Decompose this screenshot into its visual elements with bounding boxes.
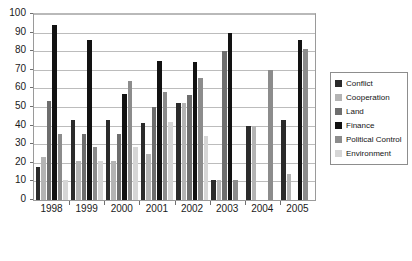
bar [128, 81, 133, 200]
bars-layer [34, 14, 315, 200]
bar [228, 33, 233, 200]
chart-legend: ConflictCooperationLandFinancePolitical … [330, 72, 408, 165]
bar [71, 120, 76, 200]
x-axis-tick-label: 2002 [181, 203, 203, 214]
bar [211, 180, 216, 200]
bar [176, 103, 181, 200]
legend-swatch-icon [335, 136, 342, 143]
y-axis-tick-mark [30, 50, 33, 51]
bar [98, 161, 103, 200]
x-axis-tick-mark [139, 201, 140, 205]
y-axis-tick-mark [30, 199, 33, 200]
bar [87, 40, 92, 200]
x-axis-tick-label: 2000 [111, 203, 133, 214]
legend-item-label: Cooperation [346, 94, 390, 102]
bar [281, 120, 286, 200]
bar [106, 120, 111, 200]
y-axis-tick-label: 90 [15, 27, 26, 37]
bar-group [139, 14, 174, 200]
bar [287, 174, 292, 200]
y-axis-tick-mark [30, 87, 33, 88]
x-axis-tick-label: 2001 [146, 203, 168, 214]
x-axis-tick-label: 1998 [40, 203, 62, 214]
bar [193, 62, 198, 200]
bar [187, 95, 192, 200]
legend-swatch-icon [335, 150, 342, 157]
bar-group [104, 14, 139, 200]
y-axis-tick-mark [30, 69, 33, 70]
bar [36, 167, 41, 200]
y-axis-tick-label: 70 [15, 64, 26, 74]
legend-item: Political Control [335, 133, 404, 146]
legend-item: Conflict [335, 77, 404, 90]
x-axis-tick-mark [280, 201, 281, 205]
bar-group [210, 14, 245, 200]
bar [117, 134, 122, 200]
bar [198, 78, 203, 200]
bar [182, 103, 187, 200]
bar [157, 61, 162, 201]
bar [52, 25, 57, 200]
x-axis: 19981999200020012002200320042005 [34, 203, 315, 219]
bar [246, 126, 251, 200]
y-axis-tick-label: 50 [15, 101, 26, 111]
legend-swatch-icon [335, 122, 342, 129]
bar [163, 92, 168, 200]
bar [252, 126, 257, 200]
y-axis-tick-mark [30, 180, 33, 181]
bar [204, 136, 209, 200]
x-axis-tick-label: 2005 [286, 203, 308, 214]
legend-item: Finance [335, 119, 404, 132]
legend-item: Land [335, 105, 404, 118]
bar-group [245, 14, 280, 200]
bar [298, 40, 303, 200]
bar-group [34, 14, 69, 200]
y-axis-tick-label: 30 [15, 138, 26, 148]
x-axis-tick-mark [245, 201, 246, 205]
y-axis-tick-mark [30, 106, 33, 107]
legend-item-label: Conflict [346, 80, 373, 88]
y-axis-tick-label: 80 [15, 45, 26, 55]
y-axis-tick-mark [30, 143, 33, 144]
bar [133, 147, 138, 200]
bar [152, 107, 157, 200]
x-axis-tick-label: 1999 [76, 203, 98, 214]
bar [233, 180, 238, 200]
bar [111, 161, 116, 200]
bar-group [175, 14, 210, 200]
y-axis-tick-label: 100 [9, 8, 26, 18]
y-axis-tick-label: 60 [15, 82, 26, 92]
x-axis-tick-mark [210, 201, 211, 205]
bar [141, 123, 146, 200]
bar [268, 70, 273, 200]
legend-item: Cooperation [335, 91, 404, 104]
x-axis-tick-mark [175, 201, 176, 205]
bar [168, 122, 173, 200]
bar-group [280, 14, 315, 200]
y-axis-tick-mark [30, 32, 33, 33]
legend-swatch-icon [335, 108, 342, 115]
x-axis-tick-label: 2003 [216, 203, 238, 214]
bar [93, 147, 98, 200]
legend-swatch-icon [335, 94, 342, 101]
bar [303, 49, 308, 200]
y-axis-tick-mark [30, 162, 33, 163]
bar [222, 51, 227, 200]
y-axis-tick-mark [30, 125, 33, 126]
bar [47, 101, 52, 200]
y-axis-tick-label: 40 [15, 120, 26, 130]
legend-item: Environment [335, 147, 404, 160]
legend-item-label: Land [346, 108, 364, 116]
legend-item-label: Political Control [346, 136, 402, 144]
x-axis-tick-mark [104, 201, 105, 205]
bar [76, 161, 81, 200]
legend-item-label: Environment [346, 150, 391, 158]
bar [41, 157, 46, 200]
y-axis-tick-label: 0 [20, 194, 26, 204]
bar [58, 134, 63, 200]
y-axis: 0102030405060708090100 [0, 13, 30, 201]
bar [217, 180, 222, 200]
y-axis-tick-mark [30, 13, 33, 14]
bar-group [69, 14, 104, 200]
bar [63, 180, 68, 200]
